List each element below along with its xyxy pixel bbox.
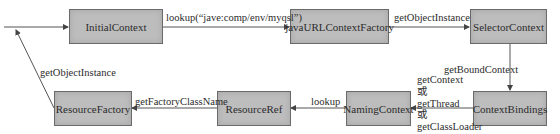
context-bindings-node: ContextBindings: [473, 91, 547, 126]
edge-label-or-2: 或: [417, 110, 427, 121]
edge-label-lookup: lookup: [311, 97, 340, 108]
edge-label-get-context: getContext: [417, 75, 463, 86]
initial-context-node: InitialContext: [69, 9, 163, 44]
edge-label-or-1: 或: [417, 87, 427, 98]
resource-factory-node: ResourceFactory: [54, 91, 132, 126]
edge-label-get-factory-class-name: getFactoryClassName: [135, 97, 228, 108]
selector-context-node: SelectorContext: [470, 9, 547, 44]
resource-ref-node: ResourceRef: [217, 91, 291, 126]
java-url-context-factory-node: javaURLContextFactory: [290, 9, 389, 44]
edge-label-get-class-loader: getClassLoader: [417, 122, 482, 133]
edge-label-get-object-instance-return: getObjectInstance: [40, 68, 116, 79]
edge-label-get-thread: getThread: [417, 99, 460, 110]
edge-label-get-object-instance-top: getObjectInstance: [394, 13, 470, 24]
edge-label-lookup-jndi: lookup(“jave:comp/env/myqsl”): [166, 13, 302, 24]
naming-context-node: NamingContext: [346, 91, 411, 126]
